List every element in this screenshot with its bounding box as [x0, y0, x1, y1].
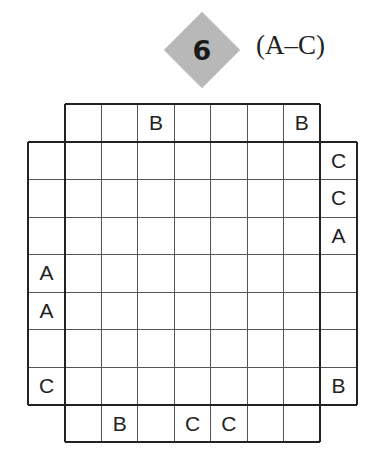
grid-line	[137, 104, 138, 442]
clue-bottom	[65, 405, 101, 442]
grid-cell[interactable]	[211, 292, 247, 330]
clue-right: C	[320, 180, 357, 218]
grid-cell[interactable]	[211, 217, 247, 255]
grid-cell[interactable]	[211, 142, 247, 180]
grid-cell[interactable]	[174, 292, 210, 330]
clue-top	[101, 104, 137, 142]
clue-right	[320, 255, 357, 293]
grid-cell[interactable]	[174, 255, 210, 293]
grid-cell[interactable]	[284, 292, 320, 330]
clue-bottom: C	[211, 405, 247, 442]
grid-cell[interactable]	[174, 180, 210, 218]
grid-cell[interactable]	[284, 180, 320, 218]
grid-cell[interactable]	[101, 292, 137, 330]
grid-cell[interactable]	[211, 330, 247, 368]
clue-top: B	[138, 104, 174, 142]
grid-cell[interactable]	[247, 367, 283, 405]
grid-line	[28, 254, 357, 255]
grid-cell[interactable]	[211, 255, 247, 293]
grid-line	[28, 141, 65, 144]
clue-left	[28, 217, 65, 255]
clue-left: A	[28, 255, 65, 293]
grid-cell[interactable]	[138, 217, 174, 255]
grid-cell[interactable]	[247, 292, 283, 330]
grid-cell[interactable]	[138, 255, 174, 293]
grid-cell[interactable]	[65, 142, 101, 180]
grid-line	[65, 404, 320, 407]
grid-line	[28, 329, 357, 330]
grid-cell[interactable]	[174, 330, 210, 368]
clue-bottom	[284, 405, 320, 442]
grid-cell[interactable]	[101, 180, 137, 218]
grid-cell[interactable]	[284, 142, 320, 180]
grid-cell[interactable]	[211, 367, 247, 405]
grid-cell[interactable]	[138, 330, 174, 368]
grid-cell[interactable]	[284, 217, 320, 255]
clue-bottom	[138, 405, 174, 442]
grid-line	[28, 217, 357, 218]
clue-left	[28, 330, 65, 368]
clue-top	[65, 104, 101, 142]
clue-right: C	[320, 142, 357, 180]
grid-line	[320, 404, 357, 407]
clue-left: A	[28, 292, 65, 330]
clue-left	[28, 142, 65, 180]
grid-line	[247, 104, 248, 442]
puzzle-number: 6	[162, 12, 242, 88]
grid-cell[interactable]	[284, 330, 320, 368]
grid-cell[interactable]	[101, 217, 137, 255]
grid-cell[interactable]	[138, 142, 174, 180]
letter-range: (A–C)	[256, 30, 325, 61]
grid-line	[210, 104, 211, 442]
grid-line	[65, 441, 320, 444]
grid-cell[interactable]	[174, 142, 210, 180]
grid-line	[28, 404, 65, 407]
grid-line	[65, 141, 320, 144]
grid-cell[interactable]	[138, 292, 174, 330]
grid-line	[28, 179, 357, 180]
grid-cell[interactable]	[65, 367, 101, 405]
grid-cell[interactable]	[174, 217, 210, 255]
clue-top	[211, 104, 247, 142]
grid-cell[interactable]	[65, 292, 101, 330]
grid-cell[interactable]	[247, 180, 283, 218]
grid-line	[28, 367, 357, 368]
clue-top	[174, 104, 210, 142]
grid-line	[27, 142, 30, 405]
clue-bottom: C	[174, 405, 210, 442]
grid-cell[interactable]	[284, 255, 320, 293]
clue-bottom	[247, 405, 283, 442]
grid-line	[283, 104, 284, 442]
grid-cell[interactable]	[101, 255, 137, 293]
grid-cell[interactable]	[174, 367, 210, 405]
grid-cell[interactable]	[101, 142, 137, 180]
grid-cell[interactable]	[247, 142, 283, 180]
clue-right	[320, 330, 357, 368]
grid-cell[interactable]	[101, 330, 137, 368]
grid-cell[interactable]	[211, 180, 247, 218]
grid-line	[356, 142, 359, 405]
clue-top	[247, 104, 283, 142]
grid-line	[65, 103, 320, 106]
grid-cell[interactable]	[65, 330, 101, 368]
grid-line	[101, 104, 102, 442]
grid-cell[interactable]	[65, 180, 101, 218]
grid-cell[interactable]	[65, 255, 101, 293]
clue-top: B	[284, 104, 320, 142]
grid-cell[interactable]	[101, 367, 137, 405]
grid-cell[interactable]	[247, 217, 283, 255]
grid-cell[interactable]	[284, 367, 320, 405]
clue-right	[320, 292, 357, 330]
grid-line	[28, 292, 357, 293]
grid-line	[319, 104, 322, 442]
grid-cell[interactable]	[247, 330, 283, 368]
grid-cell[interactable]	[65, 217, 101, 255]
grid-cell[interactable]	[138, 367, 174, 405]
grid-cell[interactable]	[247, 255, 283, 293]
clue-bottom: B	[101, 405, 137, 442]
grid-line	[320, 141, 357, 144]
clue-left: C	[28, 367, 65, 405]
grid-cell[interactable]	[138, 180, 174, 218]
clue-right: A	[320, 217, 357, 255]
clue-right: B	[320, 367, 357, 405]
